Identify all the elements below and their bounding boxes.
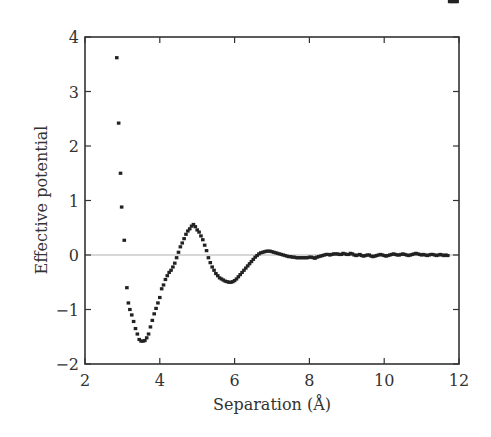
data-point bbox=[134, 327, 138, 330]
data-point bbox=[156, 301, 160, 304]
data-point bbox=[147, 332, 151, 335]
data-point bbox=[212, 269, 216, 272]
data-point bbox=[182, 237, 186, 240]
data-point bbox=[199, 234, 203, 237]
data-point bbox=[132, 320, 136, 323]
x-tick-label: 8 bbox=[304, 371, 314, 390]
y-tick-label: 1 bbox=[69, 192, 79, 211]
data-point bbox=[130, 313, 134, 316]
data-point bbox=[125, 286, 129, 289]
data-point bbox=[208, 261, 212, 264]
data-point bbox=[158, 296, 162, 299]
data-points bbox=[115, 0, 459, 343]
data-point bbox=[169, 269, 173, 272]
data-point bbox=[177, 251, 181, 254]
x-axis-ticks: 24681012 bbox=[80, 37, 469, 390]
data-point bbox=[165, 274, 169, 277]
data-point bbox=[184, 233, 188, 236]
data-point bbox=[164, 278, 168, 281]
data-point bbox=[210, 265, 214, 268]
y-tick-label: −1 bbox=[55, 301, 79, 320]
data-point bbox=[119, 172, 123, 175]
y-tick-label: −2 bbox=[55, 355, 79, 374]
data-point bbox=[207, 256, 211, 259]
data-point bbox=[194, 225, 198, 228]
y-axis-label: Effective potential bbox=[32, 126, 51, 275]
data-point bbox=[117, 122, 121, 125]
y-tick-label: 4 bbox=[69, 28, 79, 47]
data-point bbox=[160, 287, 164, 290]
data-point bbox=[154, 307, 158, 310]
plot-frame bbox=[85, 37, 459, 364]
data-point bbox=[149, 325, 153, 328]
data-point bbox=[171, 265, 175, 268]
data-point bbox=[188, 227, 192, 230]
data-point bbox=[197, 231, 201, 234]
data-point bbox=[180, 241, 184, 244]
data-point bbox=[179, 245, 183, 248]
data-point bbox=[122, 239, 126, 242]
data-point bbox=[120, 205, 124, 208]
y-tick-label: 0 bbox=[69, 246, 79, 265]
data-point bbox=[162, 283, 166, 286]
x-tick-label: 4 bbox=[155, 371, 165, 390]
data-point bbox=[127, 301, 131, 304]
y-tick-label: 2 bbox=[69, 137, 79, 156]
effective-potential-chart: 24681012 −2−101234 Separation (Å) Effect… bbox=[0, 0, 491, 437]
x-tick-label: 6 bbox=[230, 371, 240, 390]
x-tick-label: 12 bbox=[449, 371, 469, 390]
data-point bbox=[115, 56, 119, 59]
data-point bbox=[175, 256, 179, 259]
data-point bbox=[151, 319, 155, 322]
data-point bbox=[136, 332, 140, 335]
x-tick-label: 2 bbox=[80, 371, 90, 390]
data-point bbox=[446, 254, 450, 257]
data-point bbox=[143, 339, 147, 342]
data-point bbox=[173, 262, 177, 265]
y-tick-label: 3 bbox=[69, 83, 79, 102]
data-point bbox=[128, 308, 132, 311]
data-point bbox=[203, 244, 207, 247]
y-axis-ticks: −2−101234 bbox=[55, 28, 459, 374]
data-point bbox=[201, 238, 205, 241]
data-point bbox=[205, 249, 209, 252]
data-point bbox=[152, 312, 156, 315]
x-axis-label: Separation (Å) bbox=[213, 394, 331, 414]
data-point bbox=[455, 0, 459, 3]
x-tick-label: 10 bbox=[374, 371, 394, 390]
data-point bbox=[145, 336, 149, 339]
